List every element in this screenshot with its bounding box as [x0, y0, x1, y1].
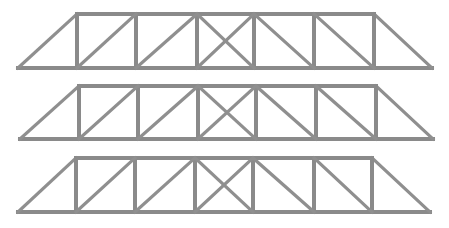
right-end-post: [376, 86, 433, 139]
diagonal-member: [254, 14, 314, 68]
truss-diagram: [0, 0, 449, 228]
diagonal-member: [76, 158, 135, 212]
left-end-post: [18, 158, 76, 212]
left-end-post: [20, 86, 79, 139]
diagonal-member: [314, 14, 374, 68]
truss-2: [20, 86, 433, 139]
diagonal-member: [136, 14, 197, 68]
truss-3: [18, 158, 430, 212]
diagonal-member: [77, 14, 136, 68]
diagonal-member: [253, 158, 314, 212]
truss-drawing: [0, 0, 449, 228]
diagonal-member: [135, 158, 195, 212]
diagonal-member: [79, 86, 138, 139]
truss-1: [18, 14, 432, 68]
right-end-post: [372, 158, 430, 212]
left-end-post: [18, 14, 77, 68]
diagonal-member: [256, 86, 316, 139]
diagonal-member: [138, 86, 198, 139]
right-end-post: [374, 14, 432, 68]
diagonal-member: [316, 86, 376, 139]
diagonal-member: [314, 158, 372, 212]
